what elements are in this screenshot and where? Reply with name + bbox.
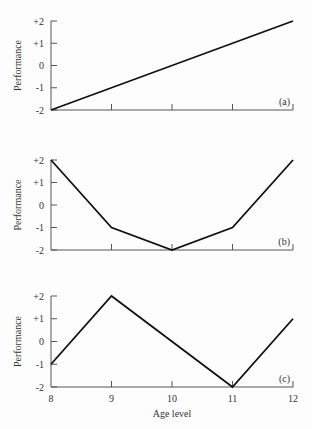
y-tick-label: -2 — [36, 245, 44, 256]
y-tick-label: 0 — [39, 200, 44, 211]
y-tick-label: +2 — [33, 155, 44, 166]
performance-line — [51, 21, 293, 110]
x-tick-label: 11 — [228, 393, 238, 404]
y-tick-label: -1 — [36, 222, 44, 233]
x-tick-label: 8 — [49, 393, 54, 404]
performance-line — [51, 296, 293, 387]
y-tick-label: +1 — [33, 177, 44, 188]
performance-line — [51, 160, 293, 250]
y-axis-title: Performance — [12, 179, 23, 231]
panel-label: (a) — [279, 96, 290, 108]
x-tick-label: 9 — [109, 393, 114, 404]
y-tick-label: -1 — [36, 82, 44, 93]
y-tick-label: -2 — [36, 105, 44, 116]
y-tick-label: +1 — [33, 38, 44, 49]
y-tick-label: 0 — [39, 60, 44, 71]
y-tick-label: -2 — [36, 382, 44, 393]
y-axis-title: Performance — [12, 39, 23, 91]
panel-label: (b) — [278, 236, 290, 248]
y-tick-label: +2 — [33, 16, 44, 27]
x-tick-label: 10 — [167, 393, 177, 404]
y-tick-label: 0 — [39, 336, 44, 347]
x-tick-label: 12 — [288, 393, 298, 404]
panel-label: (c) — [279, 373, 290, 385]
y-axis-title: Performance — [12, 315, 23, 367]
y-tick-label: +1 — [33, 313, 44, 324]
x-axis-title: Age level — [153, 408, 192, 419]
chart-canvas: +2+10-1-2(a)Performance+2+10-1-2(b)Perfo… — [0, 0, 312, 429]
y-tick-label: -1 — [36, 359, 44, 370]
y-tick-label: +2 — [33, 291, 44, 302]
